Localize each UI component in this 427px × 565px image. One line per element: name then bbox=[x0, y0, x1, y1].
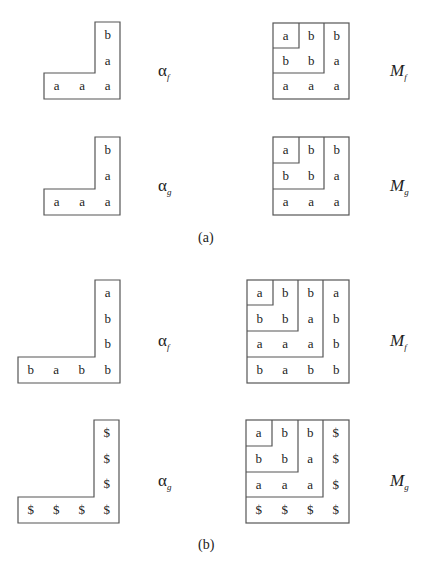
cell: a bbox=[95, 48, 121, 74]
cell: a bbox=[298, 472, 324, 498]
cell: b bbox=[324, 357, 350, 383]
cell: a bbox=[247, 331, 273, 357]
cell: $ bbox=[94, 446, 120, 472]
cell: b bbox=[298, 420, 324, 446]
cell: a bbox=[273, 189, 299, 215]
cell: $ bbox=[18, 497, 44, 523]
matrix-g-label: Mg bbox=[390, 176, 409, 197]
cell: a bbox=[273, 137, 299, 163]
cell: a bbox=[298, 306, 324, 332]
cell: $ bbox=[323, 420, 349, 446]
cell: a bbox=[298, 446, 324, 472]
caption-a: (a) bbox=[198, 230, 214, 246]
cell: b bbox=[324, 23, 350, 49]
cell: b bbox=[273, 163, 299, 189]
cell: b bbox=[273, 280, 299, 306]
cell: $ bbox=[323, 446, 349, 472]
cell: $ bbox=[44, 497, 70, 523]
cell: b bbox=[246, 446, 272, 472]
cell: b bbox=[95, 331, 121, 357]
cell: a bbox=[246, 420, 272, 446]
cell: b bbox=[95, 137, 121, 163]
cell: a bbox=[44, 73, 70, 99]
matrix-f-label: Mf bbox=[390, 61, 407, 82]
alpha-g-label: αg bbox=[158, 471, 171, 492]
cell: b bbox=[272, 446, 298, 472]
cell: a bbox=[324, 280, 350, 306]
alpha-f-label: αf bbox=[158, 61, 169, 82]
alpha-g-label: αg bbox=[158, 176, 171, 197]
cell: a bbox=[247, 280, 273, 306]
cell: b bbox=[299, 48, 325, 74]
cell: a bbox=[299, 73, 325, 99]
cell: $ bbox=[246, 497, 272, 523]
cell: b bbox=[324, 331, 350, 357]
cell: b bbox=[69, 357, 95, 383]
cell: b bbox=[247, 357, 273, 383]
cell: $ bbox=[298, 497, 324, 523]
cell: $ bbox=[94, 471, 120, 497]
cell: b bbox=[298, 357, 324, 383]
cell: a bbox=[298, 331, 324, 357]
cell: b bbox=[18, 357, 44, 383]
matrix-g-label: Mg bbox=[390, 471, 409, 492]
cell: a bbox=[273, 357, 299, 383]
cell: a bbox=[70, 189, 96, 215]
cell: $ bbox=[272, 497, 298, 523]
cell: $ bbox=[323, 472, 349, 498]
matrix-f-label: Mf bbox=[390, 331, 407, 352]
cell: b bbox=[324, 137, 350, 163]
cell: b bbox=[299, 137, 325, 163]
cell: b bbox=[95, 357, 121, 383]
cell: a bbox=[95, 163, 121, 189]
cell: a bbox=[324, 73, 350, 99]
cell: a bbox=[44, 357, 70, 383]
cell: $ bbox=[94, 497, 120, 523]
cell: a bbox=[273, 73, 299, 99]
cell: b bbox=[299, 163, 325, 189]
cell: a bbox=[273, 331, 299, 357]
cell: $ bbox=[323, 497, 349, 523]
caption-b: (b) bbox=[198, 537, 214, 553]
cell: a bbox=[324, 163, 350, 189]
cell: b bbox=[247, 306, 273, 332]
cell: $ bbox=[69, 497, 95, 523]
cell: a bbox=[324, 48, 350, 74]
cell: a bbox=[299, 189, 325, 215]
cell: a bbox=[272, 472, 298, 498]
cell: a bbox=[273, 23, 299, 49]
cell: a bbox=[95, 189, 121, 215]
cell: a bbox=[70, 73, 96, 99]
cell: b bbox=[95, 306, 121, 332]
cell: b bbox=[273, 306, 299, 332]
cell: b bbox=[324, 306, 350, 332]
cell: a bbox=[44, 189, 70, 215]
cell: a bbox=[246, 472, 272, 498]
alpha-f-label: αf bbox=[158, 331, 169, 352]
cell: b bbox=[299, 23, 325, 49]
cell: b bbox=[273, 48, 299, 74]
cell: $ bbox=[94, 420, 120, 446]
cell: a bbox=[95, 73, 121, 99]
cell: a bbox=[95, 280, 121, 306]
figure: b a a a a αf a b b b b a a a a Mf b a a … bbox=[0, 0, 427, 565]
cell: b bbox=[272, 420, 298, 446]
cell: a bbox=[324, 189, 350, 215]
cell: b bbox=[298, 280, 324, 306]
cell: b bbox=[95, 22, 121, 48]
